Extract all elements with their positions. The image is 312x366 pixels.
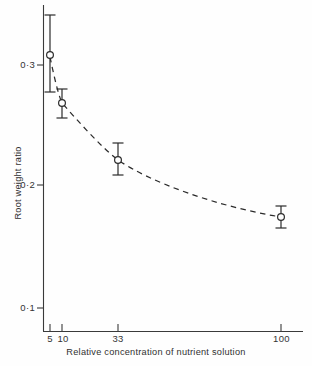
x-tick-label-2: 33 bbox=[107, 333, 129, 344]
x-axis-ticks bbox=[50, 324, 281, 332]
data-point bbox=[115, 157, 122, 164]
y-tick-label-2: 0·1 bbox=[4, 302, 35, 313]
data-point bbox=[47, 52, 54, 59]
data-markers bbox=[47, 52, 285, 221]
y-axis-title: Root weight ratio bbox=[13, 118, 23, 248]
chart-figure: 0·3 0·2 0·1 5 10 33 100 Relative concent… bbox=[0, 0, 312, 366]
data-curve bbox=[50, 57, 281, 217]
data-point bbox=[59, 100, 66, 107]
y-axis-ticks bbox=[37, 65, 43, 308]
data-point bbox=[278, 214, 285, 221]
x-tick-label-1: 10 bbox=[52, 333, 74, 344]
x-tick-label-3: 100 bbox=[268, 333, 295, 344]
x-axis-title: Relative concentration of nutrient solut… bbox=[0, 347, 312, 357]
error-bars bbox=[45, 15, 287, 228]
y-tick-label-0: 0·3 bbox=[4, 59, 35, 70]
plot-area bbox=[0, 0, 312, 366]
